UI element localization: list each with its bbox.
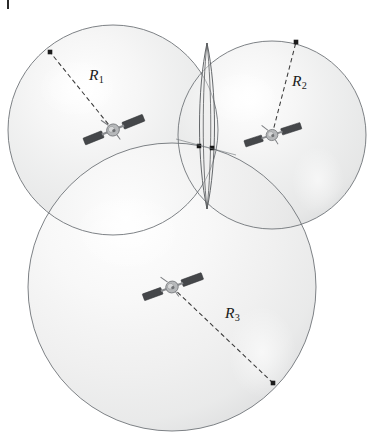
radius-label-1: R1 <box>89 66 104 85</box>
radius-label-3-letter: R <box>225 304 235 321</box>
sphere-3-highlight <box>74 192 182 272</box>
sphere-bodies <box>8 25 366 431</box>
corner-tick-mark <box>7 0 9 9</box>
figure-canvas: R1 R2 R3 <box>0 0 388 441</box>
sphere-1-highlight <box>38 58 118 118</box>
radius-endpoint-dot-3 <box>271 381 276 386</box>
radius-label-2-subscript: 2 <box>302 80 307 91</box>
radius-label-3: R3 <box>225 304 240 323</box>
radius-endpoint-dot-1 <box>48 50 53 55</box>
spheres-diagram <box>0 0 388 441</box>
radius-endpoint-dot-2 <box>294 40 299 45</box>
radius-label-1-subscript: 1 <box>99 74 104 85</box>
radius-label-2-letter: R <box>292 72 302 89</box>
radius-label-3-subscript: 3 <box>235 312 240 323</box>
radius-label-2: R2 <box>292 72 307 91</box>
radius-label-1-letter: R <box>89 66 99 83</box>
sphere-2-highlight <box>207 71 279 125</box>
